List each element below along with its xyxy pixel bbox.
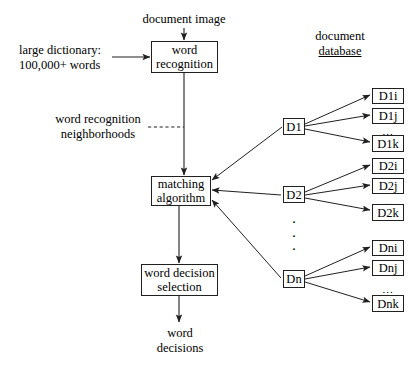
arrow-D2-to-D2j <box>305 185 370 195</box>
node-Dni[interactable]: Dni <box>372 240 404 256</box>
matching-algorithm-line-2: algorithm <box>157 191 206 205</box>
box-word-decision-selection[interactable]: word decision selection <box>141 264 218 296</box>
arrow-D2-to-D2i <box>305 165 370 192</box>
box-matching-algorithm[interactable]: matching algorithm <box>151 176 211 206</box>
node-D1k-label: D1k <box>377 137 399 151</box>
document-database-line-1: document <box>300 29 380 44</box>
label-word-decisions: word decisions <box>140 326 220 356</box>
node-D1i[interactable]: D1i <box>372 88 404 104</box>
vertical-ellipsis-icon: · · · <box>283 216 305 257</box>
node-Dn-label: Dn <box>286 272 301 286</box>
node-D2k-label: D2k <box>377 206 399 220</box>
word-decision-selection-line-2: selection <box>157 280 201 294</box>
document-database-line-2: database <box>300 44 380 59</box>
node-Dnk[interactable]: Dnk <box>372 295 404 312</box>
arrow-Dn-to-Dni <box>305 247 370 276</box>
node-D1i-label: D1i <box>379 89 398 103</box>
label-large-dictionary: large dictionary: 100,000+ words <box>19 43 119 73</box>
node-D1j[interactable]: D1j <box>372 108 404 124</box>
node-Dni-label: Dni <box>379 241 398 255</box>
node-D1-label: D1 <box>286 120 301 134</box>
arrow-Dn-to-Dnj <box>305 267 370 279</box>
ellipsis-Dn-text: ... <box>382 283 393 295</box>
word-recognition-line-2: recognition <box>156 57 213 71</box>
label-document-image: document image <box>139 12 229 27</box>
neighborhoods-line-2: neighborhoods <box>50 127 146 142</box>
node-Dnk-label: Dnk <box>377 297 399 311</box>
diagram-canvas: document image large dictionary: 100,000… <box>0 0 415 367</box>
node-D2k[interactable]: D2k <box>372 204 404 221</box>
neighborhoods-line-1: word recognition <box>50 112 146 127</box>
node-D1[interactable]: D1 <box>283 118 305 135</box>
node-D1k[interactable]: D1k <box>372 135 404 152</box>
word-decision-selection-line-1: word decision <box>144 266 214 280</box>
word-decisions-line-1: word <box>140 326 220 341</box>
node-Dn[interactable]: Dn <box>283 270 305 288</box>
node-D2-label: D2 <box>286 188 301 202</box>
arrow-D2-to-matching-algorithm <box>212 190 281 195</box>
node-D2j[interactable]: D2j <box>372 178 404 194</box>
arrow-Dn-to-matching-algorithm <box>212 200 281 278</box>
word-recognition-line-1: word <box>172 43 198 57</box>
node-D2i-label: D2i <box>379 159 398 173</box>
node-D2j-label: D2j <box>379 179 398 193</box>
arrow-D1-to-D1j <box>305 115 370 126</box>
node-D2i[interactable]: D2i <box>372 158 404 174</box>
ellipsis-Dn-group: ... <box>372 284 404 295</box>
node-D2[interactable]: D2 <box>283 186 305 203</box>
node-Dnj[interactable]: Dnj <box>372 260 404 276</box>
dictionary-line-2: 100,000+ words <box>19 58 119 73</box>
dictionary-line-1: large dictionary: <box>19 43 119 58</box>
arrow-Dn-to-Dnk <box>305 282 370 302</box>
matching-algorithm-line-1: matching <box>158 177 205 191</box>
label-document-database: document database <box>300 29 380 59</box>
node-D1j-label: D1j <box>379 109 398 123</box>
arrow-D1-to-D1i <box>305 95 370 124</box>
arrow-D1-to-D1k <box>305 129 370 142</box>
box-word-recognition[interactable]: word recognition <box>151 41 218 73</box>
arrow-D1-to-matching-algorithm <box>212 127 282 180</box>
node-Dnj-label: Dnj <box>379 261 398 275</box>
label-word-recognition-neighborhoods: word recognition neighborhoods <box>50 112 146 142</box>
arrow-D2-to-D2k <box>305 198 370 210</box>
word-decisions-line-2: decisions <box>140 341 220 356</box>
vertical-dot-3: · <box>283 243 305 257</box>
document-image-text: document image <box>139 12 229 27</box>
